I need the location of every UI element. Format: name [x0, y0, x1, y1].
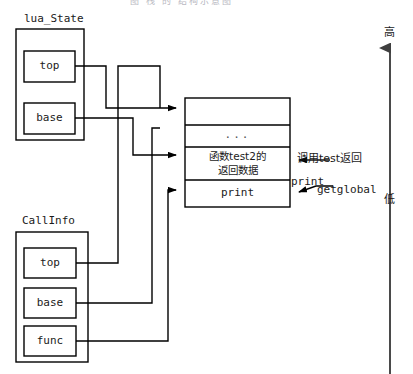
- callinfo-base-label: base: [24, 297, 76, 310]
- annotation-getglobal-op: getglobal: [317, 184, 377, 197]
- callinfo-top-label: top: [24, 257, 76, 270]
- axis-low-label: 低: [378, 194, 400, 207]
- annotation-call-test-return: 调用test返回: [297, 153, 362, 166]
- connector-callinfo-func: [76, 190, 176, 341]
- connector-lua-state-base: [75, 118, 176, 155]
- lua-state-base-label: base: [24, 112, 75, 125]
- stack-cell-test2-return-line1: 函数test2的: [185, 150, 290, 162]
- axis-high-label: 高: [378, 27, 400, 40]
- stack-cell-print: print: [185, 187, 290, 200]
- lua-state-top-label: top: [24, 60, 75, 73]
- connector-lua-state-top: [75, 66, 176, 108]
- stack-cell-test2-return-line2: 返回数据: [185, 164, 290, 176]
- lua-state-title: lua_State: [24, 13, 84, 26]
- callinfo-func-label: func: [24, 335, 76, 348]
- stack-cell-ellipsis: ...: [185, 129, 290, 142]
- callinfo-title: CallInfo: [22, 215, 75, 228]
